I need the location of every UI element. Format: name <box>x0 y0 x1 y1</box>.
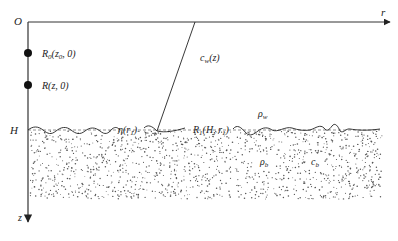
bottom-speed-label: cb <box>311 156 319 169</box>
sound-speed-profile-line <box>157 22 195 131</box>
receiver-point-label: R(z, 0) <box>41 80 69 92</box>
origin-label: O <box>14 15 22 27</box>
interface-point-label: R1(H, r1) <box>192 124 230 137</box>
sediment-region <box>30 130 383 199</box>
source-point-marker <box>24 49 32 57</box>
water-density-label: ρw <box>257 108 268 121</box>
depth-label: H <box>9 124 19 136</box>
z-axis-label: z <box>17 212 22 223</box>
bottom-density-label: ρb <box>259 156 269 169</box>
source-point-label: R0(z0, 0) <box>41 48 76 61</box>
rough-interface-curve <box>144 126 185 132</box>
acoustic-waveguide-diagram: O r z H R0(z0, 0) R(z, 0) cw(z) η(r1) R1… <box>0 0 398 241</box>
r-axis-label: r <box>381 6 386 18</box>
receiver-point-marker <box>24 81 32 89</box>
rough-interface-curve <box>233 124 380 135</box>
sound-speed-label: cw(z) <box>200 52 220 65</box>
